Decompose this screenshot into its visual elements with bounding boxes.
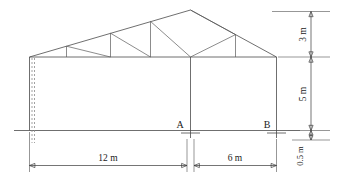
dim-label-span-left: 12 m xyxy=(98,153,118,163)
dim-label-footing-depth: 0.5 m xyxy=(295,146,305,166)
truss-top-chord-left-rafter xyxy=(30,10,191,57)
support-a-label: A xyxy=(176,119,184,130)
truss-diagonal-right-2 xyxy=(191,10,236,35)
structural-elevation-drawing: A B 3 m 5 m 0.5 m 12 m xyxy=(0,0,342,177)
truss-diagonal-right-1 xyxy=(191,35,236,57)
truss-diagonal-left-1 xyxy=(67,46,111,57)
truss-diagram-figure: A B 3 m 5 m 0.5 m 12 m xyxy=(0,0,342,177)
truss-diagonal-left-3 xyxy=(151,21,191,57)
truss-diagonal-left-2 xyxy=(111,33,151,57)
support-b-label: B xyxy=(264,119,271,130)
dim-label-span-right: 6 m xyxy=(228,153,243,163)
dim-label-roof-rise: 3 m xyxy=(298,27,308,42)
dim-label-column-height: 5 m xyxy=(298,86,308,101)
